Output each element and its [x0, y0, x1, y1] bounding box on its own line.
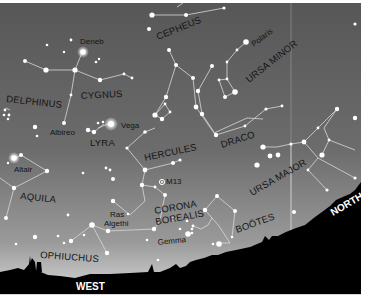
- star-label-ras: Ras: [110, 210, 124, 219]
- star-chart: CEPHEUSURSA MINORDELPHINUSCYGNUSLYRAHERC…: [0, 0, 373, 298]
- star-label-algethi: Algethi: [104, 219, 129, 228]
- star-label-deneb: Deneb: [80, 37, 104, 46]
- star-label-albireo: Albireo: [50, 128, 75, 137]
- direction-label-west: WEST: [76, 281, 105, 292]
- star-label-vega: Vega: [121, 121, 140, 130]
- star-label-m13: M13: [166, 177, 182, 186]
- star-label-altair: Altair: [14, 165, 33, 174]
- constellation-label-cygnus: CYGNUS: [81, 88, 123, 101]
- constellation-label-lyra: LYRA: [90, 137, 115, 148]
